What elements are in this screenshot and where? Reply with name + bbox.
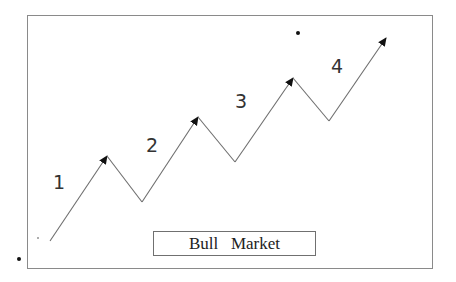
stray-dot — [17, 257, 21, 261]
wave-label-1: 1 — [53, 173, 65, 192]
correction-wave-line — [107, 156, 142, 202]
wave-label-3: 3 — [235, 92, 247, 111]
correction-wave-line — [198, 117, 235, 162]
stray-dot — [37, 237, 39, 239]
stray-dot — [296, 31, 300, 35]
impulse-wave-arrow — [50, 156, 107, 241]
correction-wave-line — [293, 78, 329, 121]
impulse-wave-arrow — [329, 38, 386, 121]
bull-market-diagram: 1234 Bull Market — [0, 0, 456, 282]
wave-label-4: 4 — [331, 57, 343, 76]
wave-label-2: 2 — [146, 136, 158, 155]
market-label-box: Bull Market — [153, 231, 316, 256]
impulse-wave-arrow — [142, 117, 198, 202]
